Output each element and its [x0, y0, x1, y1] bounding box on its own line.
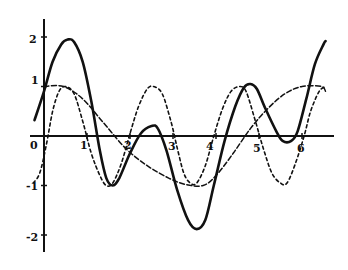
- curves: [33, 39, 325, 229]
- x-tick-label-1: 1: [80, 139, 88, 152]
- tick-labels: 0 1 2 3 4 5 6 2 1 -1 -2: [26, 33, 305, 244]
- y-tick-label-1: 1: [31, 74, 39, 87]
- x-tick-label-3: 3: [168, 140, 176, 153]
- x-tick-label-0: 0: [30, 139, 38, 152]
- axes: [30, 19, 334, 252]
- curve-solid: [35, 39, 326, 229]
- y-tick-label-neg1: -1: [26, 180, 38, 193]
- chart: 0 1 2 3 4 5 6 2 1 -1 -2: [0, 0, 348, 270]
- y-tick-label-neg2: -2: [26, 231, 38, 244]
- x-tick-label-5: 5: [253, 142, 261, 155]
- y-tick-label-2: 2: [29, 33, 37, 46]
